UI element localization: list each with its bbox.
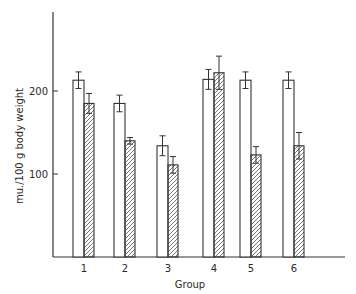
bar-open-group-6 (283, 80, 294, 257)
x-tick-label: 1 (81, 263, 87, 274)
bar-chart: 100200mu./100 g body weightGroup123456 (0, 0, 356, 294)
y-tick-label: 100 (29, 169, 48, 180)
bar-hatched-group-4 (214, 73, 224, 257)
bar-open-group-5 (240, 80, 251, 257)
bar-hatched-group-1 (84, 103, 94, 257)
x-tick-label: 4 (211, 263, 217, 274)
x-tick-label: 3 (165, 263, 171, 274)
bar-hatched-group-5 (251, 155, 261, 257)
y-tick-label: 200 (29, 86, 48, 97)
bar-hatched-group-3 (168, 165, 178, 257)
x-tick-label: 6 (291, 263, 297, 274)
bar-open-group-2 (114, 103, 125, 257)
bar-hatched-group-6 (294, 146, 304, 257)
bars (73, 56, 304, 257)
y-axis-title: mu./100 g body weight (14, 88, 25, 204)
bar-open-group-4 (203, 79, 214, 257)
x-tick-label: 2 (122, 263, 128, 274)
x-tick-label: 5 (248, 263, 254, 274)
x-axis-title: Group (175, 279, 205, 290)
bar-open-group-3 (157, 146, 168, 257)
bar-hatched-group-2 (125, 141, 135, 257)
bar-open-group-1 (73, 80, 84, 257)
